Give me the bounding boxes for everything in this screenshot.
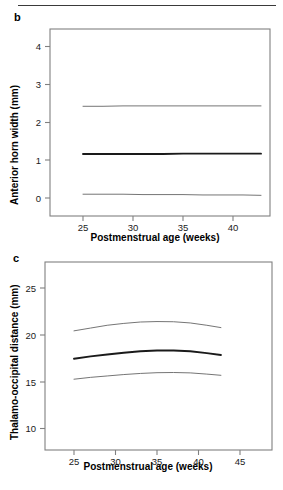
panel-c-curve-group xyxy=(74,322,221,380)
panel-b-xtick-40: 40 xyxy=(228,222,239,233)
panel-b-ytick-2: 2 xyxy=(36,117,41,128)
panel-c-xtick-30: 30 xyxy=(110,456,121,467)
panel-c: c Thalamo-occipital distance (mm) Postme… xyxy=(0,245,283,490)
panel-c-plot: 10 15 20 25 25 30 35 40 45 xyxy=(0,245,283,490)
curve-c-2 xyxy=(74,373,221,380)
panel-b: b Anterior horn width (mm) Postmenstrual… xyxy=(0,0,283,248)
panel-c-ytick-15: 15 xyxy=(25,377,36,388)
panel-b-plot: 0 1 2 3 4 25 30 35 40 xyxy=(0,0,283,248)
panel-c-xtick-45: 45 xyxy=(235,456,246,467)
panel-c-plot-frame xyxy=(45,262,272,450)
panel-b-ytick-0: 0 xyxy=(36,193,41,204)
panel-b-xtick-35: 35 xyxy=(178,222,189,233)
figure-root: b Anterior horn width (mm) Postmenstrual… xyxy=(0,0,283,490)
panel-c-xtick-35: 35 xyxy=(152,456,163,467)
panel-b-xtick-30: 30 xyxy=(128,222,139,233)
panel-c-xtick-25: 25 xyxy=(69,456,80,467)
curve-c-0 xyxy=(74,322,221,331)
panel-c-y-ticks xyxy=(40,288,45,429)
panel-b-xtick-25: 25 xyxy=(78,222,89,233)
curve-c-1 xyxy=(74,351,221,359)
panel-b-x-ticks xyxy=(83,216,233,221)
panel-b-curve-group xyxy=(83,106,261,195)
panel-c-xtick-40: 40 xyxy=(193,456,204,467)
panel-b-plot-frame xyxy=(50,29,270,216)
panel-b-y-ticks xyxy=(45,47,50,199)
panel-b-ytick-4: 4 xyxy=(36,41,41,52)
panel-c-ytick-20: 20 xyxy=(25,330,36,341)
panel-b-ytick-3: 3 xyxy=(36,79,41,90)
panel-c-x-ticks xyxy=(74,450,240,455)
panel-c-ytick-10: 10 xyxy=(25,423,36,434)
curve-b-2 xyxy=(83,194,261,195)
panel-c-ytick-25: 25 xyxy=(25,283,36,294)
panel-b-ytick-1: 1 xyxy=(36,155,41,166)
